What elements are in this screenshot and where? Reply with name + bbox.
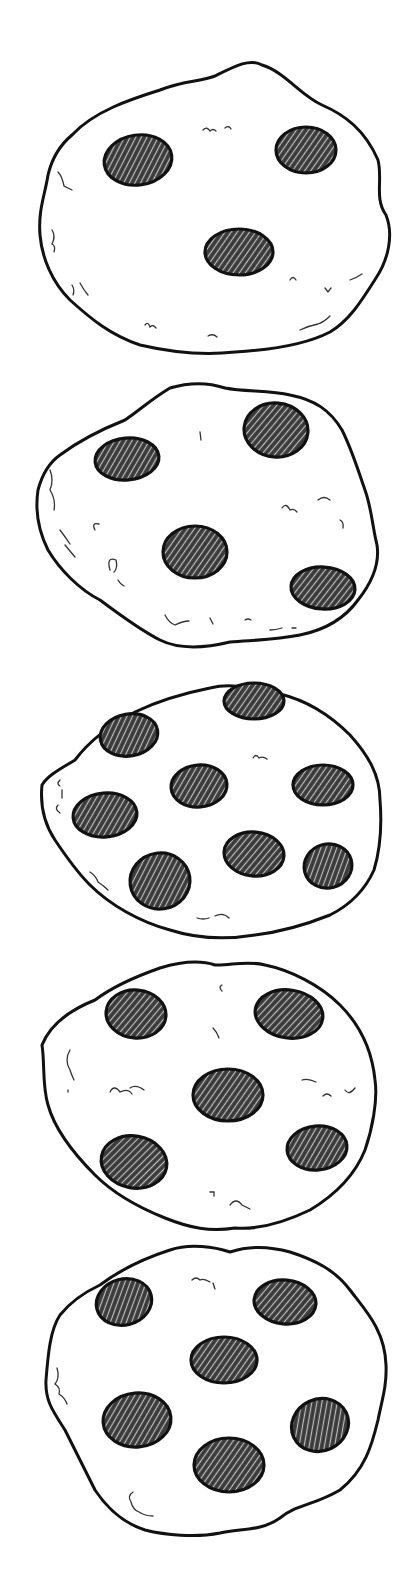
- cookie-4: [42, 962, 376, 1229]
- cookie-1: [40, 62, 390, 353]
- chocolate-chip: [163, 526, 227, 578]
- cookie-outline: [46, 1246, 386, 1535]
- chocolate-chip: [191, 1337, 257, 1383]
- cookie-3: [42, 683, 381, 938]
- chocolate-chip: [194, 1438, 264, 1492]
- cookies-illustration: [0, 0, 415, 1582]
- cookie-2: [37, 384, 378, 647]
- chocolate-chip: [193, 1069, 263, 1121]
- chocolate-chip: [293, 765, 353, 805]
- chocolate-chip: [276, 127, 336, 173]
- cookie-5: [46, 1246, 386, 1535]
- chocolate-chip: [224, 683, 284, 719]
- cookie-outline: [40, 62, 390, 353]
- cookie-stack: [37, 62, 390, 1535]
- chocolate-chip: [205, 229, 273, 275]
